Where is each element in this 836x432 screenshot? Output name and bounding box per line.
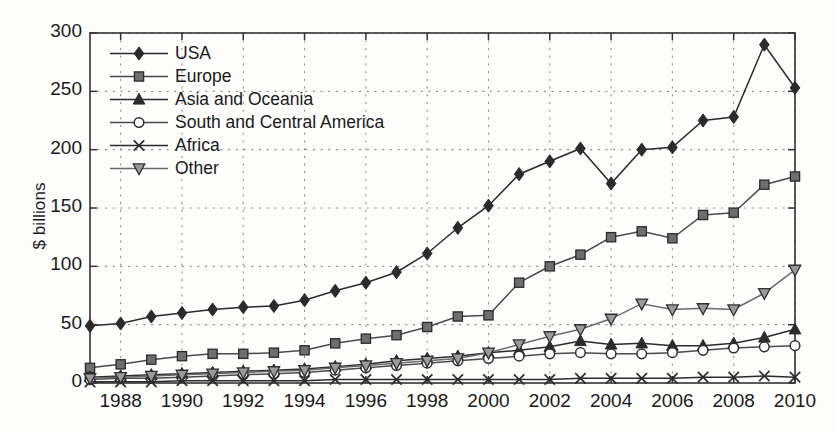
- data-point-marker: [698, 210, 707, 219]
- legend-label: South and Central America: [170, 112, 384, 133]
- legend-item-europe: Europe: [108, 65, 384, 88]
- data-point-marker: [330, 284, 340, 297]
- data-point-marker: [453, 312, 462, 321]
- legend-item-asia-and-oceania: Asia and Oceania: [108, 88, 384, 111]
- legend-label: Other: [170, 158, 219, 179]
- data-point-marker: [361, 334, 370, 343]
- data-point-marker: [208, 349, 217, 358]
- legend-marker-triangle-up-icon: [108, 88, 170, 111]
- legend-item-africa: Africa: [108, 134, 384, 157]
- data-point-marker: [392, 331, 401, 340]
- data-point-marker: [698, 346, 708, 356]
- data-point-marker: [576, 348, 586, 358]
- data-point-marker: [668, 234, 677, 243]
- legend-label: Asia and Oceania: [170, 89, 313, 110]
- data-point-marker: [789, 265, 801, 276]
- data-point-marker: [515, 278, 524, 287]
- data-point-marker: [300, 294, 310, 307]
- legend-label: Africa: [170, 135, 220, 156]
- data-point-marker: [422, 247, 432, 260]
- series-asia-and-oceania: [84, 323, 801, 382]
- legend-marker-circle-icon: [108, 111, 170, 134]
- data-point-marker: [361, 276, 371, 289]
- data-point-marker: [545, 262, 554, 271]
- data-point-marker: [116, 317, 126, 330]
- chart-container: $ billions 050100150200250300 1988199019…: [0, 0, 836, 432]
- legend-item-south-and-central-america: South and Central America: [108, 111, 384, 134]
- series-europe: [85, 172, 799, 373]
- data-point-marker: [728, 305, 740, 316]
- legend-item-other: Other: [108, 157, 384, 180]
- legend-marker-diamond-icon: [108, 42, 170, 65]
- data-point-marker: [729, 208, 738, 217]
- data-point-marker: [134, 47, 144, 60]
- data-point-marker: [637, 227, 646, 236]
- data-point-marker: [760, 342, 770, 352]
- data-point-marker: [116, 360, 125, 369]
- legend-marker-triangle-down-icon: [108, 157, 170, 180]
- data-point-marker: [177, 352, 186, 361]
- data-point-marker: [729, 110, 739, 123]
- data-point-marker: [269, 348, 278, 357]
- data-point-marker: [177, 306, 187, 319]
- data-point-marker: [545, 155, 555, 168]
- data-point-marker: [85, 319, 95, 332]
- data-point-marker: [147, 355, 156, 364]
- data-point-marker: [147, 310, 157, 323]
- data-point-marker: [514, 168, 524, 181]
- data-point-marker: [239, 349, 248, 358]
- data-point-marker: [331, 339, 340, 348]
- legend-item-usa: USA: [108, 42, 384, 65]
- data-point-marker: [606, 349, 616, 359]
- data-point-marker: [668, 141, 678, 154]
- data-point-marker: [667, 305, 679, 316]
- data-point-marker: [392, 266, 402, 279]
- data-point-marker: [514, 351, 524, 361]
- data-point-marker: [269, 299, 279, 312]
- data-point-marker: [133, 93, 145, 104]
- data-point-marker: [760, 180, 769, 189]
- data-point-marker: [423, 322, 432, 331]
- data-point-marker: [134, 72, 143, 81]
- data-point-marker: [134, 118, 144, 128]
- legend-marker-x-icon: [108, 134, 170, 157]
- legend-label: Europe: [170, 66, 231, 87]
- data-point-marker: [668, 348, 678, 358]
- data-point-marker: [238, 301, 248, 314]
- data-point-marker: [606, 233, 615, 242]
- legend-label: USA: [170, 43, 211, 64]
- legend-marker-square-icon: [108, 65, 170, 88]
- data-point-marker: [208, 303, 218, 316]
- data-point-marker: [759, 289, 771, 300]
- data-point-marker: [133, 164, 145, 175]
- data-point-marker: [545, 349, 555, 359]
- data-point-marker: [484, 199, 494, 212]
- data-point-marker: [637, 349, 647, 359]
- data-point-marker: [729, 343, 739, 353]
- chart-legend: USAEuropeAsia and OceaniaSouth and Centr…: [108, 42, 384, 180]
- data-point-marker: [790, 341, 800, 351]
- data-point-marker: [576, 250, 585, 259]
- data-point-marker: [636, 337, 648, 348]
- data-point-marker: [453, 221, 463, 234]
- data-point-marker: [300, 346, 309, 355]
- data-point-marker: [484, 311, 493, 320]
- data-point-marker: [790, 172, 799, 181]
- data-point-marker: [698, 114, 708, 127]
